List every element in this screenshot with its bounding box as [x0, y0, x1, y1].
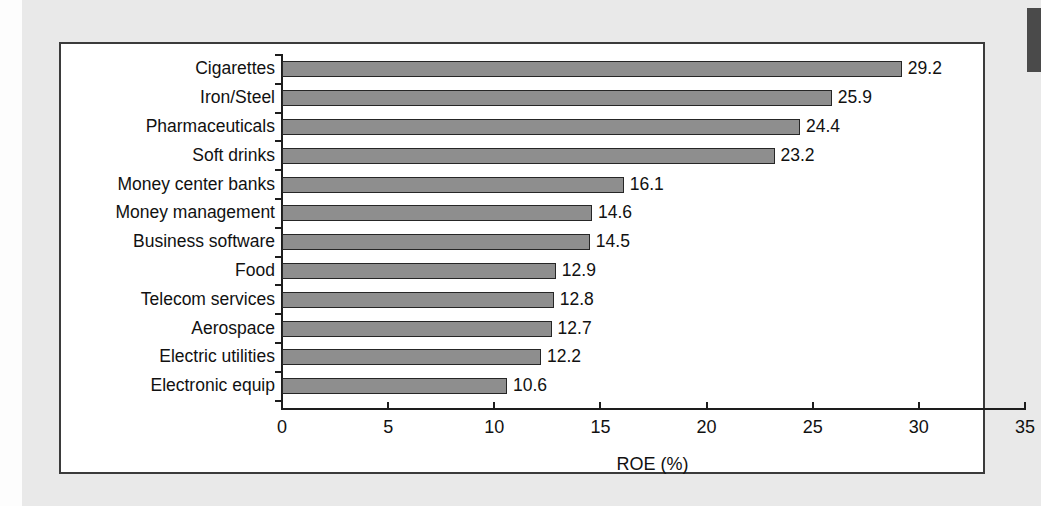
bar	[282, 205, 592, 221]
y-axis-tick	[275, 112, 282, 114]
bar-value-label: 16.1	[630, 176, 664, 194]
y-axis-tick	[275, 83, 282, 85]
bar-value-label: 12.9	[562, 262, 596, 280]
y-axis-tick	[275, 342, 282, 344]
bar	[282, 61, 902, 77]
bar	[282, 292, 554, 308]
y-axis-tick	[275, 256, 282, 258]
bar	[282, 148, 775, 164]
category-label: Food	[65, 262, 275, 280]
x-axis-tick	[812, 402, 814, 409]
category-label: Money center banks	[65, 176, 275, 194]
bar	[282, 177, 624, 193]
bar-value-label: 14.6	[598, 204, 632, 222]
y-axis-tick	[275, 169, 282, 171]
bar	[282, 90, 832, 106]
x-axis-tick	[281, 402, 283, 409]
bar-value-label: 10.6	[513, 377, 547, 395]
bar-value-label: 12.2	[547, 348, 581, 366]
screenshot-page: CigarettesIron/SteelPharmaceuticalsSoft …	[0, 0, 1041, 506]
bar-value-label: 29.2	[908, 60, 942, 78]
category-label: Money management	[65, 204, 275, 222]
bar	[282, 263, 556, 279]
x-axis-tick-label: 10	[484, 418, 504, 436]
y-axis-tick	[275, 313, 282, 315]
bar-value-label: 23.2	[781, 147, 815, 165]
category-label: Cigarettes	[65, 60, 275, 78]
x-axis-tick-label: 25	[803, 418, 823, 436]
x-axis-tick-label: 0	[277, 418, 287, 436]
category-label: Soft drinks	[65, 147, 275, 165]
x-axis-tick	[387, 402, 389, 409]
x-axis-tick-label: 15	[590, 418, 610, 436]
bar-value-label: 25.9	[838, 89, 872, 107]
y-axis-tick	[275, 54, 282, 56]
x-axis-tick	[918, 402, 920, 409]
x-axis-tick	[1024, 402, 1026, 409]
bar	[282, 119, 800, 135]
y-axis-tick	[275, 198, 282, 200]
bar	[282, 321, 552, 337]
x-axis-title: ROE (%)	[617, 455, 689, 473]
bar	[282, 234, 590, 250]
chart-frame: CigarettesIron/SteelPharmaceuticalsSoft …	[59, 42, 985, 474]
y-axis-tick	[275, 140, 282, 142]
bar-chart-plot: CigarettesIron/SteelPharmaceuticalsSoft …	[61, 44, 983, 472]
y-axis-tick	[275, 371, 282, 373]
bar-value-label: 24.4	[806, 118, 840, 136]
y-axis-tick	[275, 284, 282, 286]
x-axis-line	[281, 408, 1026, 410]
bar-value-label: 12.8	[560, 291, 594, 309]
x-axis-tick	[493, 402, 495, 409]
x-axis-tick-label: 5	[383, 418, 393, 436]
x-axis-tick	[706, 402, 708, 409]
bar-value-label: 12.7	[558, 320, 592, 338]
category-label: Electronic equip	[65, 377, 275, 395]
x-axis-tick-label: 20	[697, 418, 717, 436]
page-left-margin	[0, 0, 22, 506]
bar	[282, 378, 507, 394]
category-label: Telecom services	[65, 291, 275, 309]
bar-value-label: 14.5	[596, 233, 630, 251]
category-label: Electric utilities	[65, 348, 275, 366]
category-label: Pharmaceuticals	[65, 118, 275, 136]
x-axis-tick-label: 30	[909, 418, 929, 436]
category-label: Aerospace	[65, 320, 275, 338]
category-label: Business software	[65, 233, 275, 251]
x-axis-tick-label: 35	[1015, 418, 1035, 436]
category-label: Iron/Steel	[65, 89, 275, 107]
scan-edge-mark	[1027, 8, 1041, 72]
bar	[282, 349, 541, 365]
y-axis-tick	[275, 227, 282, 229]
x-axis-tick	[599, 402, 601, 409]
